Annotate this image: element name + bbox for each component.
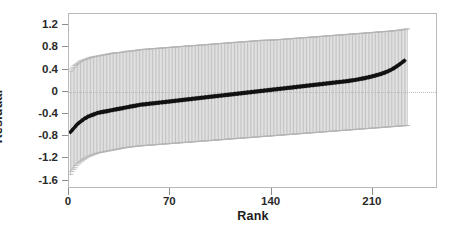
residual-rank-chart: Residual 1.20.80.40-0.4-0.8-1.2-1.6 0701… bbox=[0, 0, 461, 233]
x-tick-mark bbox=[271, 188, 272, 195]
y-tick-label: 1.2 bbox=[42, 18, 58, 30]
y-tick-label: -0.4 bbox=[38, 107, 58, 119]
y-tick-label: -1.2 bbox=[38, 151, 58, 163]
y-axis-title: Residual bbox=[0, 0, 20, 233]
data-point-markers bbox=[69, 14, 436, 187]
x-tick-label: 70 bbox=[163, 195, 176, 207]
x-tick-mark bbox=[68, 188, 69, 195]
y-tick-label: -0.8 bbox=[38, 129, 58, 141]
y-tick-label: 0 bbox=[52, 85, 58, 97]
plot-area bbox=[68, 13, 437, 188]
x-tick-label: 210 bbox=[362, 195, 381, 207]
y-axis-title-text: Residual bbox=[0, 90, 5, 144]
x-axis-title: Rank bbox=[68, 209, 438, 223]
x-tick-mark bbox=[372, 188, 373, 195]
marker-path bbox=[69, 58, 407, 134]
x-tick-label: 0 bbox=[65, 195, 71, 207]
x-tick-label: 140 bbox=[261, 195, 280, 207]
y-tick-label: 0.8 bbox=[42, 40, 58, 52]
y-tick-label: -1.6 bbox=[38, 174, 58, 186]
x-tick-mark bbox=[169, 188, 170, 195]
y-tick-label: 0.4 bbox=[42, 63, 58, 75]
